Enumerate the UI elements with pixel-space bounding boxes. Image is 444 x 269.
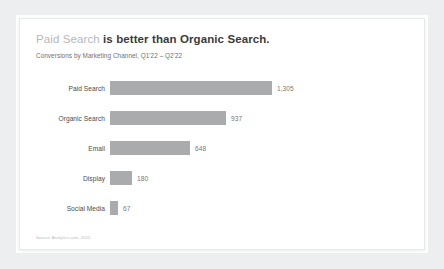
- title-highlight: Paid Search: [36, 33, 100, 45]
- category-label: Social Media: [36, 205, 110, 212]
- bar-value-label: 1,305: [277, 85, 294, 92]
- bar-track: 1,305: [110, 81, 410, 95]
- chart-row[interactable]: Organic Search 937: [36, 111, 410, 125]
- chart-row[interactable]: Email 648: [36, 141, 410, 155]
- bar-social-media[interactable]: [110, 201, 118, 215]
- bar-paid-search[interactable]: [110, 81, 272, 95]
- bar-display[interactable]: [110, 171, 132, 185]
- bar-track: 67: [110, 201, 410, 215]
- bar-chart: Paid Search 1,305 Organic Search 937 Ema…: [36, 81, 410, 221]
- category-label: Paid Search: [36, 85, 110, 92]
- page-title: Paid Search is better than Organic Searc…: [36, 32, 408, 46]
- chart-row[interactable]: Paid Search 1,305: [36, 81, 410, 95]
- chart-page: Paid Search is better than Organic Searc…: [0, 0, 444, 269]
- chart-row[interactable]: Display 180: [36, 171, 410, 185]
- category-label: Organic Search: [36, 115, 110, 122]
- card-content: Paid Search is better than Organic Searc…: [20, 19, 424, 249]
- bar-value-label: 180: [137, 175, 148, 182]
- bar-organic-search[interactable]: [110, 111, 226, 125]
- bar-track: 648: [110, 141, 410, 155]
- chart-row[interactable]: Social Media 67: [36, 201, 410, 215]
- category-label: Display: [36, 175, 110, 182]
- category-label: Email: [36, 145, 110, 152]
- chart-subtitle: Conversions by Marketing Channel, Q1'22 …: [36, 52, 408, 60]
- bar-email[interactable]: [110, 141, 190, 155]
- bar-value-label: 937: [231, 115, 242, 122]
- bar-value-label: 648: [195, 145, 206, 152]
- title-rest: is better than Organic Search.: [100, 33, 270, 45]
- bar-track: 180: [110, 171, 410, 185]
- chart-card: Paid Search is better than Organic Searc…: [19, 18, 425, 250]
- source-note: Source: Analytics.com, 2022.: [36, 235, 91, 240]
- bar-value-label: 67: [123, 205, 130, 212]
- bar-track: 937: [110, 111, 410, 125]
